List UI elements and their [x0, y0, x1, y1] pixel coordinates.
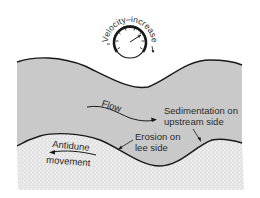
- sedimentation-label-line2: upstream side: [164, 116, 224, 127]
- sedimentation-label-line1: Sedimentation on: [164, 105, 238, 116]
- antidune-diagram: Velocity–increase Flow Sedimentation on …: [0, 0, 260, 198]
- erosion-label-line2: lee side: [135, 142, 168, 153]
- erosion-label-line1: Erosion on: [135, 131, 180, 142]
